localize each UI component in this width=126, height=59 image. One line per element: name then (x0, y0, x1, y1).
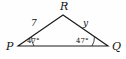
angle-measure-p: 47° (27, 37, 39, 45)
geometry-figure-triangle-pqr: P R Q 7 y 47° 47° (0, 0, 126, 59)
triangle-svg-canvas: P R Q 7 y 47° 47° (0, 0, 126, 59)
vertex-label-p: P (5, 40, 14, 53)
vertex-label-r: R (59, 0, 68, 13)
vertex-label-q: Q (112, 40, 121, 53)
side-label-rq: y (82, 18, 89, 28)
angle-arc-q-icon (92, 37, 94, 46)
angle-measure-q: 47° (76, 37, 88, 45)
side-label-pr: 7 (31, 18, 37, 28)
